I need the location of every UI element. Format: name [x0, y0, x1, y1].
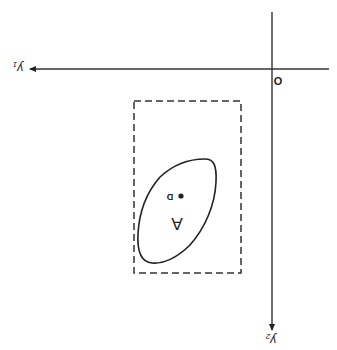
svg-text:A: A [171, 214, 183, 233]
svg-text:O: O [273, 75, 282, 87]
origin-label: O [273, 75, 282, 87]
svg-text:y2: y2 [265, 332, 277, 347]
axis-y1-label: y1 [13, 60, 24, 75]
diagram-canvas: O y1 y2 D A [0, 0, 337, 350]
region-a-outline [138, 159, 216, 263]
region-a-label: A [171, 214, 183, 233]
point-d-marker [178, 193, 183, 198]
point-d-label: D [166, 192, 173, 202]
svg-text:y1: y1 [13, 60, 24, 75]
axis-y2-label: y2 [265, 332, 277, 347]
svg-text:D: D [166, 192, 173, 202]
